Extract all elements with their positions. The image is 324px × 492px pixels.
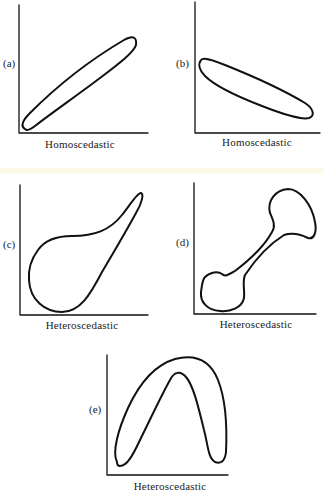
scatter-shapes-figure: [0, 0, 324, 492]
panel-a-shape: [23, 37, 137, 130]
panel-d-shape: [201, 189, 316, 311]
caption-b: Homoscedastic: [222, 136, 292, 148]
panel-e-shape: [115, 357, 226, 466]
caption-d: Heteroscedastic: [220, 318, 293, 330]
panel-b-axes: [195, 2, 320, 133]
panel-d-axes: [194, 183, 316, 314]
caption-c: Heteroscedastic: [46, 319, 119, 331]
panel-a-axes: [19, 5, 148, 133]
panel-label-b: (b): [176, 57, 189, 69]
caption-e: Heteroscedastic: [134, 480, 207, 492]
panel-label-a: (a): [3, 57, 15, 69]
panel-c-shape: [29, 193, 143, 312]
panel-label-c: (c): [3, 238, 15, 250]
panel-label-d: (d): [176, 236, 189, 248]
panel-label-e: (e): [89, 403, 101, 415]
caption-a: Homoscedastic: [45, 138, 115, 150]
panel-b-shape: [199, 59, 312, 119]
